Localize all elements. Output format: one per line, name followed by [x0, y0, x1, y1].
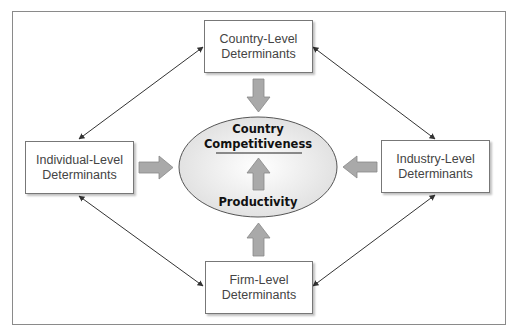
node-label-line2: Determinants: [398, 167, 472, 182]
node-firm-level: Firm-Level Determinants: [205, 261, 313, 314]
node-label-line2: Determinants: [222, 288, 296, 303]
center-title-line1: Country: [198, 122, 318, 137]
node-label-line1: Firm-Level: [229, 273, 288, 288]
arrow-individual-country: [79, 47, 203, 139]
center-title: Country Competitiveness: [198, 122, 318, 152]
block-arrow-right-icon: [139, 156, 173, 179]
node-label-line2: Determinants: [42, 168, 116, 183]
node-label-line1: Industry-Level: [396, 152, 475, 167]
block-arrow-left-icon: [343, 156, 377, 178]
node-label-line1: Country-Level: [220, 32, 298, 47]
center-productivity-label: Productivity: [198, 195, 318, 209]
block-arrow-down-icon: [247, 79, 270, 112]
arrow-country-industry: [313, 47, 435, 139]
node-industry-level: Industry-Level Determinants: [381, 140, 490, 193]
node-label-line1: Individual-Level: [36, 153, 123, 168]
arrow-firm-industry: [313, 195, 435, 286]
block-arrow-up-icon: [247, 223, 270, 256]
node-country-level: Country-Level Determinants: [204, 20, 313, 73]
arrow-individual-firm: [79, 196, 203, 286]
node-label-line2: Determinants: [221, 47, 295, 62]
node-individual-level: Individual-Level Determinants: [25, 141, 134, 194]
center-title-line2: Competitiveness: [198, 137, 318, 152]
